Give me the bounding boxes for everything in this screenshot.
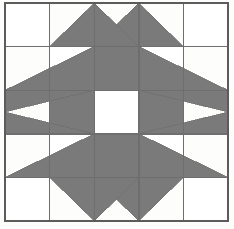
corner-top-left	[5, 3, 50, 47]
corner-bottom-right	[183, 177, 228, 221]
corner-bottom-left	[5, 177, 50, 221]
corner-top-right	[183, 3, 228, 47]
quilt-block-canvas	[0, 0, 234, 229]
quilt-block-figure	[0, 0, 234, 229]
checkerboard-cell-r1-c2	[94, 47, 139, 91]
checkerboard-cell-r2-c2	[94, 90, 139, 134]
checkerboard-cell-r3-c2	[94, 134, 139, 178]
